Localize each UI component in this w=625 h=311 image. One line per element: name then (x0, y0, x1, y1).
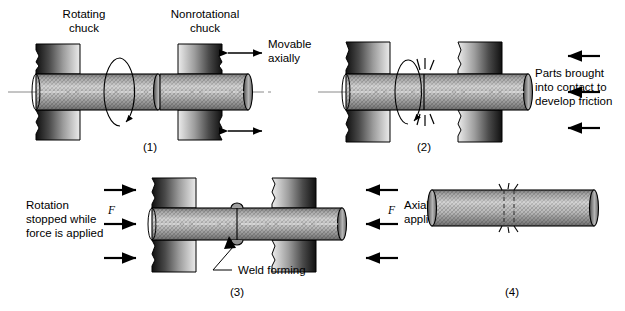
parts-contact-label-line3: develop friction (535, 95, 612, 107)
movable-axially-label-line1: Movable (268, 38, 311, 50)
rotation-stopped-label-line1: Rotation (26, 199, 69, 211)
nonrotational-chuck-label-line1: Nonrotational (171, 8, 239, 20)
panel-2-caption: (2) (417, 141, 431, 153)
panel2-left-chuck-lower-jaw (346, 110, 390, 142)
nonrotational-chuck-label-line2: chuck (190, 22, 220, 34)
panel4-bar-right-end-face (590, 190, 599, 226)
rotation-stopped-label-line3: force is applied (26, 227, 103, 239)
parts-contact-label-line2: into contact to (535, 81, 607, 93)
nonrotational-chuck-upper-jaw (178, 44, 222, 74)
movable-axially-label-line2: axially (268, 52, 300, 64)
force-symbol-left: F (107, 204, 116, 216)
panel2-bar-end-face (524, 74, 533, 110)
panel3-left-chuck-upper-jaw (152, 178, 196, 208)
diagram-canvas: Rotating chuck Nonrotational chuck Movab… (0, 0, 625, 311)
panel3-right-chuck-upper-jaw (272, 178, 316, 208)
panel2-right-chuck-upper-jaw (458, 42, 502, 74)
rotating-chuck-label-line2: chuck (69, 22, 99, 34)
panel3-bar-end-face (338, 208, 347, 240)
rotating-chuck-upper-jaw (36, 44, 80, 74)
panel3-left-chuck-lower-jaw (152, 240, 196, 272)
friction-welding-figure: Rotating chuck Nonrotational chuck Movab… (0, 0, 625, 311)
nonrotational-chuck-lower-jaw (178, 110, 222, 140)
rotating-chuck-label-line1: Rotating (63, 8, 106, 20)
force-symbol-right: F (387, 204, 396, 216)
parts-contact-label-line1: Parts brought (535, 67, 605, 79)
panel-3-caption: (3) (230, 286, 244, 298)
weld-flash-upper (231, 203, 243, 208)
panel2-left-chuck-upper-jaw (346, 42, 390, 74)
panel2-right-chuck-lower-jaw (458, 110, 502, 142)
nonrotational-bar-end-face (244, 74, 253, 110)
weld-forming-label: Weld forming (238, 264, 306, 276)
rotating-chuck-lower-jaw (36, 110, 80, 140)
panel4-bar-left-end-face (428, 190, 437, 226)
panel-1-caption: (1) (143, 141, 157, 153)
panel4-bar-shading (432, 190, 594, 226)
panel-4-caption: (4) (505, 286, 519, 298)
rotation-stopped-label-line2: stopped while (26, 213, 96, 225)
